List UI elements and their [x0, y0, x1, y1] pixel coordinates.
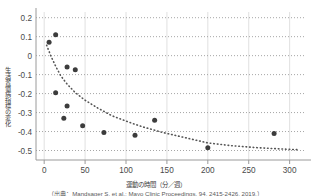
y-tick-label: 0 — [8, 51, 32, 60]
data-point — [61, 116, 66, 121]
data-point — [65, 65, 70, 70]
data-point — [47, 40, 52, 45]
x-tick-label: 200 — [201, 166, 215, 175]
trend-line-path — [47, 45, 300, 150]
data-point — [272, 131, 277, 136]
y-tick-label: -0.5 — [8, 146, 32, 155]
plot-frame — [36, 8, 311, 164]
x-axis-title: 運動の時間（分／週） — [0, 180, 311, 189]
x-tick-label: 300 — [283, 166, 297, 175]
x-tick-label: 0 — [42, 166, 47, 175]
data-point — [152, 118, 157, 123]
y-tick-label: -0.1 — [8, 70, 32, 79]
y-tick-label: 0.2 — [8, 13, 32, 22]
data-point — [73, 67, 78, 72]
y-tick-label: -0.3 — [8, 108, 32, 117]
x-tick-label: 50 — [81, 166, 90, 175]
data-point — [205, 145, 210, 150]
chart-figure: 生活習慣病指標の変化 0.20.10-0.1-0.2-0.3-0.4-0.5 0… — [0, 0, 311, 196]
trend-line — [47, 45, 300, 150]
grid-lines — [36, 12, 306, 160]
x-tick-label: 150 — [160, 166, 174, 175]
x-tick-label: 100 — [119, 166, 133, 175]
data-point — [53, 90, 58, 95]
y-tick-label: 0.1 — [8, 32, 32, 41]
source-caption: （出典：Mandsager S, et al.: Mayo Clinic Pro… — [0, 189, 311, 196]
data-point — [133, 133, 138, 138]
y-tick-label: -0.2 — [8, 89, 32, 98]
y-tick-label: -0.4 — [8, 127, 32, 136]
data-point — [101, 130, 106, 135]
data-point — [65, 103, 70, 108]
x-tick-label: 250 — [242, 166, 256, 175]
data-point — [53, 32, 58, 37]
data-point — [80, 123, 85, 128]
